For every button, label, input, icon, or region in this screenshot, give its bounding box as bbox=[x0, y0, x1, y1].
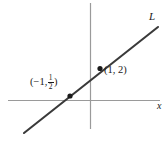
point-marker-right bbox=[97, 66, 102, 71]
x-axis-label: x bbox=[157, 101, 161, 111]
fraction-numerator: 1 bbox=[48, 74, 54, 82]
fraction-denominator: 2 bbox=[48, 82, 54, 91]
point-marker-left bbox=[67, 93, 72, 98]
point-label-right: (1, 2) bbox=[104, 65, 127, 76]
line-name-label: L bbox=[149, 11, 155, 22]
point-label-left-suffix: ) bbox=[54, 77, 58, 88]
fraction-one-half: 1 2 bbox=[48, 74, 54, 91]
point-label-left: (−1, 1 2 ) bbox=[30, 74, 58, 91]
line-graph-figure: L x (1, 2) (−1, 1 2 ) bbox=[0, 0, 168, 141]
point-label-left-prefix: (−1, bbox=[30, 77, 47, 88]
coordinate-plane-svg bbox=[0, 0, 168, 141]
